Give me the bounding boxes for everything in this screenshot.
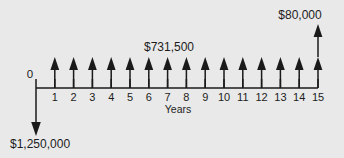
inflow-arrow-year-3 (88, 57, 97, 88)
inflow-arrow-year-15 (314, 57, 323, 88)
inflow-arrows (50, 57, 322, 88)
tick-label-2: 2 (71, 91, 77, 103)
inflow-arrow-year-1 (50, 57, 59, 88)
tick-label-9: 9 (202, 91, 208, 103)
initial-outflow-label: $1,250,000 (10, 137, 70, 151)
inflow-arrow-year-11 (238, 57, 247, 88)
diagram-canvas: 0 1 2 3 4 5 6 7 8 9 10 11 12 13 14 15 Ye… (0, 0, 344, 158)
tick-label-11: 11 (237, 91, 248, 103)
tick-label-14: 14 (293, 91, 305, 103)
inflow-arrow-year-12 (257, 57, 266, 88)
tick-label-12: 12 (255, 91, 267, 103)
inflow-arrow-year-10 (220, 57, 229, 88)
axis-caption-years: Years (165, 103, 191, 115)
salvage-inflow-label: $80,000 (278, 8, 322, 22)
tick-label-7: 7 (165, 91, 171, 103)
tick-label-4: 4 (108, 91, 114, 103)
annual-inflow-label: $731,500 (144, 40, 194, 54)
inflow-arrow-year-5 (126, 57, 135, 88)
outflow-arrow-year-0 (31, 88, 41, 136)
inflow-arrow-year-9 (201, 57, 210, 88)
tick-label-10: 10 (218, 91, 230, 103)
inflow-arrow-year-13 (276, 57, 285, 88)
tick-label-5: 5 (127, 91, 133, 103)
tick-label-1: 1 (52, 91, 58, 103)
inflow-arrow-year-4 (107, 57, 116, 88)
tick-label-13: 13 (274, 91, 286, 103)
tick-label-15: 15 (312, 91, 324, 103)
tick-label-3: 3 (89, 91, 95, 103)
inflow-arrow-year-14 (295, 57, 304, 88)
inflow-arrow-year-2 (69, 57, 78, 88)
salvage-arrow-year-15 (314, 24, 323, 57)
cash-flow-diagram: 0 1 2 3 4 5 6 7 8 9 10 11 12 13 14 15 Ye… (0, 0, 344, 158)
origin-label: 0 (27, 68, 33, 80)
inflow-arrow-year-8 (182, 57, 191, 88)
tick-marks (36, 79, 318, 88)
tick-label-8: 8 (183, 91, 189, 103)
inflow-arrow-year-7 (163, 57, 172, 88)
inflow-arrow-year-6 (144, 57, 153, 88)
tick-label-6: 6 (146, 91, 152, 103)
